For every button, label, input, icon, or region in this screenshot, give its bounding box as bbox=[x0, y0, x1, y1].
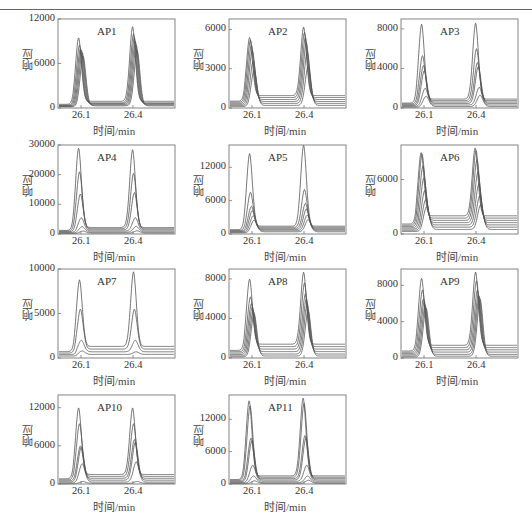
panel-title: AP11 bbox=[268, 401, 293, 413]
chart-panel-ap6: 0600026.126.4AP6响应时间/min bbox=[343, 126, 520, 251]
x-tick-label: 26.1 bbox=[415, 109, 433, 120]
y-tick-label: 12000 bbox=[15, 12, 55, 23]
y-tick-label: 0 bbox=[15, 101, 55, 112]
chart-panel-ap3: 04000800026.126.4AP3响应时间/min bbox=[343, 0, 520, 125]
y-axis-label: 响应 bbox=[20, 425, 36, 447]
x-axis-label: 时间/min bbox=[436, 372, 478, 388]
y-tick-label: 10000 bbox=[15, 197, 55, 208]
y-tick-label: 12000 bbox=[186, 412, 226, 423]
x-tick-label: 26.4 bbox=[124, 235, 142, 246]
y-axis-label: 响应 bbox=[20, 175, 36, 197]
y-axis-label: 响应 bbox=[191, 299, 207, 321]
chart-panel-ap11: 060001200026.126.4AP11响应时间/min bbox=[171, 376, 348, 501]
trace-line bbox=[59, 340, 174, 354]
x-tick-label: 26.1 bbox=[243, 359, 261, 370]
trace-line bbox=[402, 67, 517, 106]
y-axis-label: 响应 bbox=[191, 425, 207, 447]
y-axis-label: 响应 bbox=[191, 175, 207, 197]
y-tick-label: 0 bbox=[358, 227, 398, 238]
x-axis-label: 时间/min bbox=[93, 498, 135, 514]
y-tick-label: 0 bbox=[358, 101, 398, 112]
y-tick-label: 8000 bbox=[358, 22, 398, 33]
chromatogram-grid: 060001200026.126.4AP1响应时间/min03000600026… bbox=[0, 0, 532, 520]
x-tick-label: 26.1 bbox=[72, 485, 90, 496]
y-tick-label: 0 bbox=[358, 351, 398, 362]
trace-line bbox=[230, 480, 345, 484]
y-tick-label: 30000 bbox=[15, 138, 55, 149]
panel-title: AP2 bbox=[268, 25, 288, 37]
chart-panel-ap10: 060001200026.126.4AP10响应时间/min bbox=[0, 376, 177, 501]
panel-title: AP3 bbox=[440, 25, 460, 37]
chart-panel-ap5: 060001200026.126.4AP5响应时间/min bbox=[171, 126, 348, 251]
y-tick-label: 0 bbox=[15, 351, 55, 362]
trace-line bbox=[402, 295, 517, 355]
y-tick-label: 0 bbox=[186, 351, 226, 362]
x-tick-label: 26.4 bbox=[295, 109, 313, 120]
panel-title: AP8 bbox=[268, 275, 288, 287]
x-tick-label: 26.1 bbox=[243, 485, 261, 496]
x-tick-label: 26.1 bbox=[72, 359, 90, 370]
chart-panel-ap1: 060001200026.126.4AP1响应时间/min bbox=[0, 0, 177, 125]
x-tick-label: 26.4 bbox=[124, 109, 142, 120]
trace-line bbox=[230, 299, 345, 355]
panel-title: AP10 bbox=[97, 401, 122, 413]
y-axis-label: 响应 bbox=[363, 299, 379, 321]
trace-line bbox=[402, 297, 517, 356]
panel-title: AP7 bbox=[97, 275, 117, 287]
y-axis-label: 响应 bbox=[363, 49, 379, 71]
y-tick-label: 0 bbox=[186, 227, 226, 238]
panel-title: AP5 bbox=[268, 151, 288, 163]
y-tick-label: 12000 bbox=[15, 401, 55, 412]
chart-panel-ap8: 04000800026.126.4AP8响应时间/min bbox=[171, 250, 348, 375]
y-tick-label: 8000 bbox=[186, 272, 226, 283]
chart-panel-ap7: 050001000026.126.4AP7响应时间/min bbox=[0, 250, 177, 375]
y-tick-label: 12000 bbox=[186, 160, 226, 171]
y-tick-label: 0 bbox=[15, 477, 55, 488]
chart-panel-ap4: 010000200003000026.126.4AP4响应时间/min bbox=[0, 126, 177, 251]
trace-line bbox=[230, 190, 345, 231]
y-axis-label: 响应 bbox=[191, 49, 207, 71]
x-axis-label: 时间/min bbox=[264, 498, 306, 514]
trace-line bbox=[59, 172, 174, 231]
x-tick-label: 26.4 bbox=[124, 359, 142, 370]
panel-title: AP6 bbox=[440, 151, 460, 163]
x-tick-label: 26.4 bbox=[295, 485, 313, 496]
x-tick-label: 26.4 bbox=[295, 235, 313, 246]
panel-title: AP9 bbox=[440, 275, 460, 287]
y-tick-label: 0 bbox=[186, 101, 226, 112]
x-tick-label: 26.4 bbox=[467, 109, 485, 120]
x-tick-label: 26.1 bbox=[243, 235, 261, 246]
x-tick-label: 26.1 bbox=[72, 235, 90, 246]
x-tick-label: 26.4 bbox=[467, 359, 485, 370]
chart-panel-ap9: 04000800026.126.4AP9响应时间/min bbox=[343, 250, 520, 375]
y-tick-label: 0 bbox=[15, 227, 55, 238]
panel-title: AP4 bbox=[97, 151, 117, 163]
y-tick-label: 6000 bbox=[186, 22, 226, 33]
x-tick-label: 26.1 bbox=[415, 359, 433, 370]
y-axis-label: 响应 bbox=[20, 49, 36, 71]
x-tick-label: 26.4 bbox=[467, 235, 485, 246]
x-tick-label: 26.4 bbox=[295, 359, 313, 370]
y-tick-label: 10000 bbox=[15, 262, 55, 273]
chart-panel-ap2: 03000600026.126.4AP2响应时间/min bbox=[171, 0, 348, 125]
y-axis-label: 响应 bbox=[363, 175, 379, 197]
y-tick-label: 8000 bbox=[358, 278, 398, 289]
y-axis-label: 响应 bbox=[20, 299, 36, 321]
trace-line bbox=[230, 436, 345, 482]
x-tick-label: 26.1 bbox=[72, 109, 90, 120]
x-tick-label: 26.1 bbox=[243, 109, 261, 120]
x-tick-label: 26.4 bbox=[124, 485, 142, 496]
x-tick-label: 26.1 bbox=[415, 235, 433, 246]
y-tick-label: 0 bbox=[186, 477, 226, 488]
panel-title: AP1 bbox=[97, 25, 117, 37]
